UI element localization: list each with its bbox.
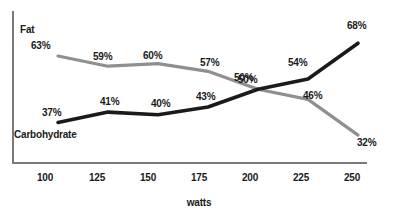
carbohydrate-series-label: Carbohydrate xyxy=(14,129,77,140)
carbohydrate-point-label-200: 50% xyxy=(234,72,253,83)
carbohydrate-point-label-225: 54% xyxy=(288,57,307,68)
x-tick-175: 175 xyxy=(191,172,207,183)
fat-point-label-250: 32% xyxy=(357,137,376,148)
x-tick-250: 250 xyxy=(344,172,360,183)
carbohydrate-point-label-150: 40% xyxy=(151,98,170,109)
fat-point-label-100: 63% xyxy=(31,40,50,51)
fat-point-label-125: 59% xyxy=(93,51,112,62)
fat-series-label: Fat xyxy=(20,24,34,35)
fat-point-label-225: 46% xyxy=(303,90,322,101)
fat-point-label-150: 60% xyxy=(143,50,162,61)
x-tick-125: 125 xyxy=(89,172,105,183)
carbohydrate-point-label-125: 41% xyxy=(100,96,119,107)
chart-container: Fat Carbohydrate 63% 59% 60% 57% 50% 46%… xyxy=(0,0,394,218)
carbohydrate-point-label-175: 43% xyxy=(196,91,215,102)
fat-point-label-175: 57% xyxy=(200,57,219,68)
x-tick-150: 150 xyxy=(140,172,156,183)
carbohydrate-point-label-250: 68% xyxy=(347,20,366,31)
carbohydrate-point-label-100: 37% xyxy=(42,107,61,118)
x-tick-200: 200 xyxy=(242,172,258,183)
x-tick-100: 100 xyxy=(37,172,53,183)
x-tick-225: 225 xyxy=(293,172,309,183)
x-axis-title: watts xyxy=(187,197,212,208)
